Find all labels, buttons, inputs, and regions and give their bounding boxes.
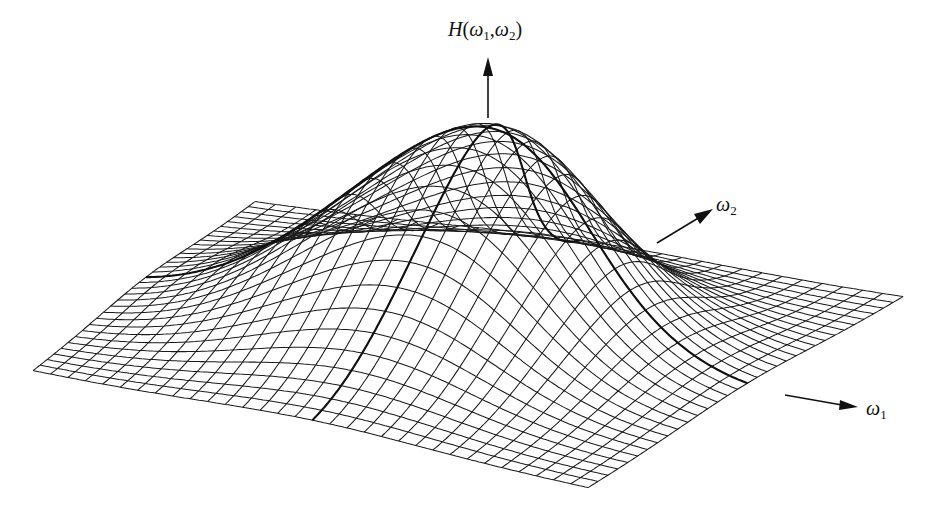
mesh-line-v (467, 273, 762, 459)
mesh-line-u (61, 348, 628, 462)
surface-plot (0, 0, 930, 515)
mesh-line-u (234, 217, 873, 314)
mesh-line-u (33, 371, 588, 488)
z-axis-arrow (483, 57, 493, 118)
z-axis-label: H(ω1,ω2) (448, 18, 522, 44)
w2-axis-arrow (657, 209, 713, 243)
mesh-line-v (519, 284, 822, 472)
mesh-line-v (295, 124, 561, 417)
mesh-line-u (125, 165, 718, 402)
mesh-line-u (82, 308, 657, 443)
mesh-line-v (588, 297, 903, 488)
w1-axis-label: ω1 (866, 397, 887, 423)
mesh-line-u (228, 222, 864, 320)
mesh-line-u (255, 202, 903, 297)
mesh-line-v (120, 215, 357, 388)
mesh-line-v (364, 156, 641, 432)
mesh-line-u (40, 365, 598, 481)
w2-axis-label: ω2 (716, 193, 737, 219)
surface-mesh (33, 123, 903, 487)
mesh-line-v (554, 290, 863, 480)
w1-axis-arrow (785, 395, 858, 410)
